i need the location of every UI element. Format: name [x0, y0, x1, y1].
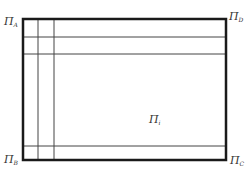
label-symbol: Π — [230, 154, 240, 167]
label-top-right: ΠD — [229, 11, 243, 23]
label-bottom-left: ΠB — [4, 154, 18, 166]
label-interior: Πi — [149, 114, 161, 126]
outer-rectangle — [23, 19, 226, 160]
label-subscript: A — [14, 21, 18, 28]
diagram-canvas: ΠA ΠD ΠB ΠC Πi — [0, 0, 248, 174]
label-subscript: C — [240, 160, 245, 167]
label-subscript: D — [239, 16, 244, 23]
label-symbol: Π — [149, 113, 159, 126]
label-symbol: Π — [229, 10, 239, 23]
grid-drawing — [0, 0, 248, 174]
label-top-left: ΠA — [4, 16, 18, 28]
label-bottom-right: ΠC — [230, 155, 244, 167]
label-subscript: B — [14, 159, 18, 166]
label-symbol: Π — [4, 153, 14, 166]
label-subscript: i — [159, 119, 161, 126]
label-symbol: Π — [4, 15, 14, 28]
